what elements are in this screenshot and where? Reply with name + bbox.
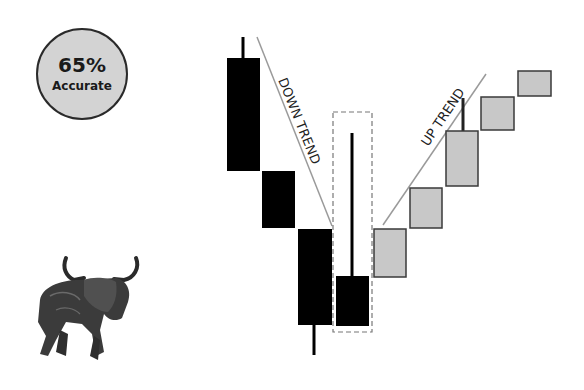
candle-3	[298, 229, 332, 355]
candle-4-reversal	[336, 133, 369, 326]
candle-9	[518, 71, 551, 96]
candle-5	[374, 229, 406, 277]
candlestick-diagram: DOWN TREND UP TREND	[0, 0, 584, 390]
candle-8	[481, 97, 514, 130]
down-trend-label: DOWN TREND	[275, 76, 323, 167]
bull-icon	[38, 258, 137, 360]
candle-2	[262, 171, 295, 228]
candle-6	[410, 188, 442, 228]
candle-1	[227, 37, 260, 171]
